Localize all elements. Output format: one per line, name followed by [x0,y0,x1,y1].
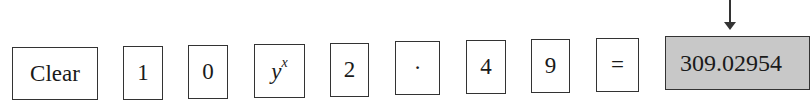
decimal-point-key[interactable]: · [395,41,440,95]
key-0[interactable]: 0 [188,45,228,99]
key-1[interactable]: 1 [123,46,163,100]
calculator-display: 309.02954 [665,36,810,90]
arrow-down-icon [724,22,736,30]
equals-key[interactable]: = [596,38,639,92]
key-9[interactable]: 9 [531,39,570,93]
clear-key-label: Clear [30,61,80,87]
key-0-label: 0 [202,59,214,85]
clear-key[interactable]: Clear [12,47,98,100]
key-4-label: 4 [480,54,492,80]
key-2-label: 2 [344,57,356,83]
key-2[interactable]: 2 [330,43,369,97]
display-value: 309.02954 [680,50,782,77]
key-4[interactable]: 4 [466,40,506,94]
power-key[interactable]: yx [254,44,305,98]
power-key-label: yx [271,58,287,85]
key-1-label: 1 [137,60,149,86]
decimal-point-label: · [414,55,422,81]
key-9-label: 9 [545,53,557,79]
equals-key-label: = [611,52,624,78]
